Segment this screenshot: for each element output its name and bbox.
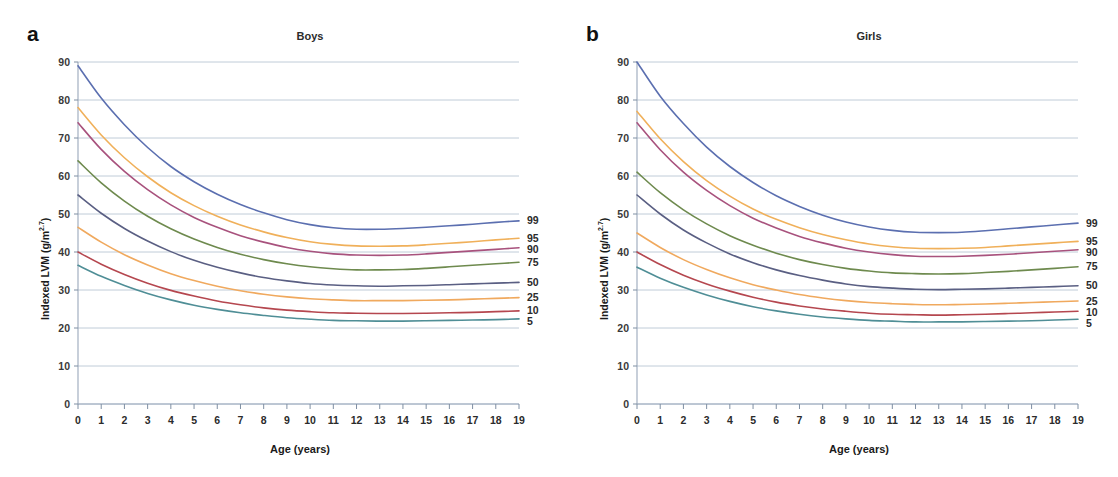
y-tick-label: 10 (58, 360, 70, 372)
x-tick-label: 4 (727, 414, 733, 426)
x-tick-label: 5 (750, 414, 756, 426)
x-tick-label: 7 (797, 414, 803, 426)
x-tick-label: 10 (863, 414, 875, 426)
x-tick-label: 15 (420, 414, 432, 426)
y-tick-label: 30 (617, 284, 629, 296)
y-tick-label: 0 (623, 398, 629, 410)
x-tick-label: 5 (191, 414, 197, 426)
x-tick-label: 19 (1072, 414, 1084, 426)
y-tick-label: 20 (617, 322, 629, 334)
x-tick-label: 17 (467, 414, 479, 426)
y-tick-label: 80 (617, 94, 629, 106)
x-tick-label: 1 (657, 414, 663, 426)
x-tick-label: 12 (910, 414, 922, 426)
x-tick-label: 2 (680, 414, 686, 426)
y-tick-label: 80 (58, 94, 70, 106)
percentile-curve-10 (637, 252, 1078, 315)
y-tick-label: 90 (617, 56, 629, 68)
x-tick-label: 0 (634, 414, 640, 426)
percentile-curve-99 (637, 62, 1078, 233)
x-tick-label: 1 (98, 414, 104, 426)
y-tick-label: 90 (58, 56, 70, 68)
percentile-label-50: 50 (527, 276, 539, 288)
y-tick-label: 60 (58, 170, 70, 182)
figure-root: a Boys Indexed LVM (g/m2.7) Age (years) … (0, 0, 1118, 477)
y-tick-label: 70 (617, 132, 629, 144)
x-tick-label: 6 (214, 414, 220, 426)
x-tick-label: 14 (956, 414, 968, 426)
x-tick-label: 16 (1003, 414, 1015, 426)
x-tick-label: 3 (145, 414, 151, 426)
y-tick-label: 70 (58, 132, 70, 144)
x-tick-label: 16 (444, 414, 456, 426)
panel-girls: b Girls Indexed LVM (g/m2.7) Age (years)… (559, 0, 1118, 477)
x-tick-label: 8 (820, 414, 826, 426)
x-tick-label: 10 (304, 414, 316, 426)
percentile-label-99: 99 (1086, 217, 1098, 229)
plot-area-boys: 0102030405060708090012345678910111213141… (0, 0, 559, 477)
x-tick-label: 4 (168, 414, 174, 426)
x-tick-label: 18 (490, 414, 502, 426)
x-tick-label: 18 (1049, 414, 1061, 426)
percentile-label-90: 90 (1086, 246, 1098, 258)
percentile-label-25: 25 (527, 291, 539, 303)
y-tick-label: 40 (617, 246, 629, 258)
percentile-label-99: 99 (527, 214, 539, 226)
x-tick-label: 14 (397, 414, 409, 426)
percentile-label-90: 90 (527, 243, 539, 255)
x-tick-label: 11 (328, 414, 339, 426)
x-tick-label: 9 (284, 414, 290, 426)
y-tick-label: 0 (64, 398, 70, 410)
x-tick-label: 9 (843, 414, 849, 426)
percentile-curve-90 (78, 123, 519, 256)
percentile-curve-75 (78, 161, 519, 270)
y-tick-label: 50 (58, 208, 70, 220)
percentile-curve-99 (78, 66, 519, 230)
panel-boys: a Boys Indexed LVM (g/m2.7) Age (years) … (0, 0, 559, 477)
percentile-label-75: 75 (1086, 260, 1098, 272)
percentile-label-50: 50 (1086, 279, 1098, 291)
percentile-label-5: 5 (527, 315, 533, 327)
x-tick-label: 12 (351, 414, 363, 426)
x-tick-label: 2 (121, 414, 127, 426)
plot-area-girls: 0102030405060708090012345678910111213141… (559, 0, 1118, 477)
x-tick-label: 15 (979, 414, 991, 426)
x-tick-label: 11 (887, 414, 898, 426)
x-tick-label: 6 (773, 414, 779, 426)
x-tick-label: 13 (933, 414, 945, 426)
y-tick-label: 20 (58, 322, 70, 334)
y-tick-label: 10 (617, 360, 629, 372)
x-tick-label: 0 (75, 414, 81, 426)
y-tick-label: 50 (617, 208, 629, 220)
x-tick-label: 7 (238, 414, 244, 426)
x-tick-label: 19 (513, 414, 525, 426)
percentile-label-75: 75 (527, 256, 539, 268)
percentile-label-5: 5 (1086, 317, 1092, 329)
y-tick-label: 40 (58, 246, 70, 258)
y-tick-label: 60 (617, 170, 629, 182)
x-tick-label: 3 (704, 414, 710, 426)
y-tick-label: 30 (58, 284, 70, 296)
x-tick-label: 8 (261, 414, 267, 426)
x-tick-label: 17 (1026, 414, 1038, 426)
x-tick-label: 13 (374, 414, 386, 426)
